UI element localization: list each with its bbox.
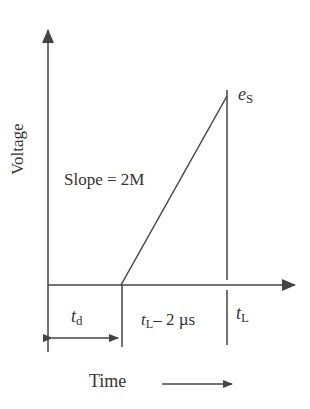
peak-label: eS — [238, 84, 253, 107]
ramp-line — [121, 96, 227, 285]
peak-var: e — [238, 84, 246, 104]
ramp-voltage-diagram — [0, 0, 310, 409]
tl-label: tL — [236, 303, 249, 326]
slope-label: Slope = 2M — [64, 170, 144, 190]
ramp-rest: – 2 µs — [153, 310, 195, 329]
tl-sub: L — [241, 310, 249, 325]
x-axis-label: Time — [89, 371, 126, 392]
td-sub: d — [76, 313, 82, 328]
peak-sub: S — [246, 91, 253, 106]
td-label: td — [71, 306, 83, 329]
ramp-duration-label: tL– 2 µs — [141, 310, 195, 332]
y-axis-label: Voltage — [8, 123, 28, 175]
